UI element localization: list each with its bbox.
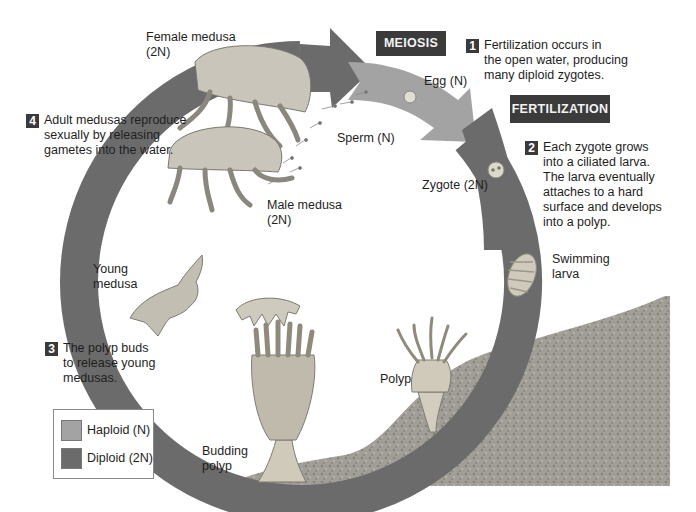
young-medusa-label-line1: Young: [93, 262, 128, 277]
step-1: 1 Fertilization occurs in the open water…: [466, 38, 646, 83]
zygote-cell: [488, 162, 504, 178]
step-4-text: Adult medusas reproduce sexually by rele…: [26, 113, 196, 158]
step-3-number: 3: [45, 342, 58, 356]
step-1-text: Fertilization occurs in the open water, …: [466, 38, 646, 83]
female-medusa-label: Female medusa: [146, 30, 236, 45]
young-medusa: [130, 255, 203, 336]
step-4-number: 4: [26, 114, 39, 128]
life-cycle-diagram: MEIOSIS FERTILIZATION 1 Fertilization oc…: [0, 0, 696, 512]
legend-label-diploid: Diploid (2N): [87, 451, 153, 465]
step-1-number: 1: [466, 39, 479, 53]
step-2-number: 2: [525, 141, 538, 155]
budding-polyp-label-line2: polyp: [202, 459, 232, 474]
polyp-label: Polyp: [380, 372, 411, 387]
swimming-larva-label-line1: Swimming: [552, 252, 610, 267]
swimming-larva-label-line2: larva: [552, 267, 579, 282]
step-2-text: Each zygote grows into a ciliated larva.…: [525, 140, 675, 230]
male-medusa-label: Male medusa: [267, 198, 342, 213]
haploid-swatch: [61, 420, 82, 441]
legend-item-diploid: Diploid (2N): [61, 448, 153, 468]
legend-label-haploid: Haploid (N): [87, 423, 150, 437]
female-medusa-ploidy: (2N): [146, 45, 170, 60]
zygote-label: Zygote (2N): [422, 178, 488, 193]
young-medusa-label-line2: medusa: [93, 277, 137, 292]
egg-cell: [404, 91, 416, 103]
step-3: 3 The polyp buds to release young medusa…: [45, 341, 165, 386]
budding-polyp-label-line1: Budding: [202, 444, 248, 459]
budding-polyp: [252, 322, 315, 482]
step-2: 2 Each zygote grows into a ciliated larv…: [525, 140, 675, 230]
ploidy-legend: Haploid (N) Diploid (2N): [53, 409, 154, 479]
male-medusa-ploidy: (2N): [267, 213, 291, 228]
egg-label: Egg (N): [424, 74, 467, 89]
meiosis-badge: MEIOSIS: [376, 31, 446, 56]
sperm-label: Sperm (N): [337, 131, 395, 146]
step-3-text: The polyp buds to release young medusas.: [45, 341, 165, 386]
step-4: 4 Adult medusas reproduce sexually by re…: [26, 113, 196, 158]
legend-item-haploid: Haploid (N): [61, 420, 150, 440]
diploid-swatch: [61, 448, 82, 469]
fertilization-badge: FERTILIZATION: [510, 95, 610, 123]
